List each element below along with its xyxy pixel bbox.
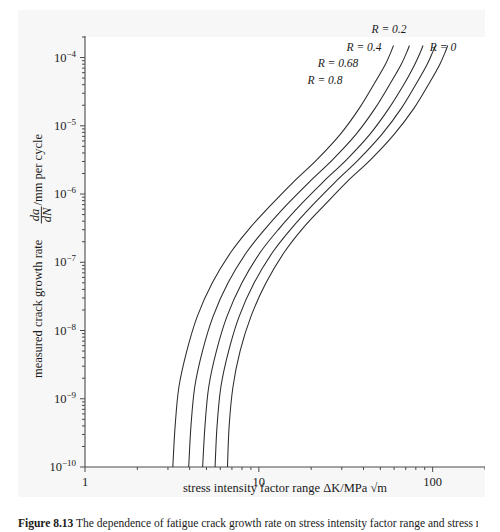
y-axis-title-suffix: /mm per cycle [31, 134, 45, 206]
y-axis-title: measured crack growth rate dadN /mm per … [28, 134, 54, 379]
y-tick-label: 10−9 [54, 390, 77, 406]
y-axis-ticks [80, 37, 85, 467]
fatigue-crack-growth-chart: 10−410−510−610−710−810−910−10 110100 R =… [18, 10, 485, 497]
y-tick-label: 10−5 [54, 117, 77, 133]
y-axis-denominator: dN [40, 207, 54, 222]
series-label: R = 0 [429, 41, 457, 53]
x-tick-label: 1 [82, 475, 88, 489]
y-axis-tick-labels: 10−410−510−610−710−810−910−10 [49, 49, 76, 474]
y-tick-label: 10−7 [54, 253, 77, 269]
series-label: R = 0.68 [317, 57, 359, 69]
figure-caption: Figure 8.13 The dependence of fatigue cr… [18, 517, 478, 532]
figure-caption-text: The dependence of fatigue crack growth r… [76, 517, 478, 529]
x-axis-title: stress intensity factor range ΔK/MPa √m [183, 481, 387, 495]
y-tick-label: 10−4 [54, 49, 77, 65]
series-label: R = 0.8 [307, 74, 343, 86]
figure-caption-number: Figure 8.13 [18, 517, 73, 529]
y-tick-label: 10−6 [54, 185, 77, 201]
figure-panel: 10−410−510−610−710−810−910−10 110100 R =… [18, 10, 485, 497]
series-label: R = 0.4 [346, 41, 382, 53]
x-axis-ticks [85, 467, 485, 472]
y-tick-label: 10−8 [54, 322, 77, 338]
y-tick-label: 10−10 [49, 458, 76, 474]
x-tick-label: 100 [423, 475, 442, 489]
y-axis-title-prefix: measured crack growth rate [31, 239, 45, 378]
series-label: R = 0.2 [371, 23, 407, 35]
